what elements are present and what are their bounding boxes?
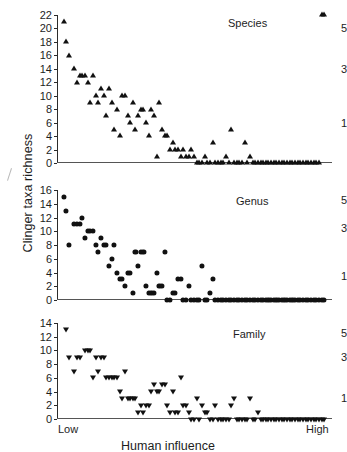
y-tick-family-0 — [54, 419, 58, 420]
data-point — [80, 215, 85, 220]
data-point — [178, 376, 184, 381]
data-point — [125, 113, 131, 118]
data-point — [104, 242, 109, 247]
y-tick-label-genus-2: 2 — [46, 281, 52, 292]
right-scale-genus-3: 3 — [341, 222, 347, 233]
data-point — [101, 93, 107, 98]
data-point — [122, 369, 128, 374]
y-tick-family-14 — [54, 323, 58, 324]
y-tick-family-12 — [54, 337, 58, 338]
y-tick-species-10 — [54, 96, 58, 97]
data-point — [186, 284, 191, 289]
data-point — [93, 242, 98, 247]
data-point — [122, 284, 127, 289]
data-point — [66, 242, 71, 247]
y-tick-family-4 — [54, 392, 58, 393]
plot-area-species — [57, 15, 331, 163]
data-point — [141, 249, 146, 254]
y-tick-genus-14 — [54, 204, 58, 205]
panel-label-genus: Genus — [236, 196, 268, 207]
y-tick-genus-4 — [54, 273, 58, 274]
right-scale-species-1: 1 — [341, 117, 347, 128]
y-tick-species-4 — [54, 136, 58, 137]
y-tick-species-16 — [54, 55, 58, 56]
data-point — [226, 417, 232, 422]
data-point — [87, 349, 93, 354]
data-point — [170, 140, 176, 145]
y-tick-genus-0 — [54, 300, 58, 301]
y-tick-label-genus-6: 6 — [46, 253, 52, 264]
right-scale-species-3: 3 — [341, 63, 347, 74]
data-point — [321, 417, 327, 422]
data-point — [154, 270, 159, 275]
y-tick-genus-12 — [54, 218, 58, 219]
y-tick-species-14 — [54, 69, 58, 70]
data-point — [175, 410, 181, 415]
data-point — [63, 39, 69, 44]
data-point — [95, 99, 101, 104]
y-tick-genus-2 — [54, 286, 58, 287]
data-point — [199, 403, 205, 408]
data-point — [146, 133, 152, 138]
y-tick-species-8 — [54, 109, 58, 110]
data-point — [96, 249, 101, 254]
right-scale-genus-1: 1 — [341, 270, 347, 281]
data-point — [135, 113, 141, 118]
y-tick-label-genus-10: 10 — [40, 226, 52, 237]
data-point — [152, 291, 157, 296]
data-point — [210, 277, 215, 282]
right-scale-family-5: 5 — [341, 328, 347, 339]
data-point — [164, 133, 170, 138]
y-tick-species-20 — [54, 28, 58, 29]
data-point — [101, 355, 107, 360]
y-axis-title: Clinger taxa richness — [21, 103, 35, 283]
y-tick-label-species-20: 20 — [40, 23, 52, 34]
data-point — [77, 222, 82, 227]
data-point — [64, 208, 69, 213]
data-point — [90, 72, 96, 77]
data-point — [151, 383, 157, 388]
data-point — [112, 242, 117, 247]
data-point — [87, 99, 93, 104]
y-tick-label-species-2: 2 — [46, 144, 52, 155]
panel-species: 0246810121416182022531 — [57, 15, 331, 163]
y-tick-genus-6 — [54, 259, 58, 260]
data-point — [71, 369, 77, 374]
data-point — [74, 79, 80, 84]
data-point — [160, 284, 165, 289]
y-tick-species-6 — [54, 123, 58, 124]
data-point — [114, 106, 120, 111]
y-tick-label-genus-16: 16 — [40, 185, 52, 196]
y-tick-label-species-8: 8 — [46, 104, 52, 115]
y-tick-label-family-6: 6 — [46, 372, 52, 383]
data-point — [122, 93, 128, 98]
data-point — [140, 106, 146, 111]
plot-area-genus — [57, 190, 331, 300]
y-tick-species-0 — [54, 163, 58, 164]
data-point — [228, 403, 234, 408]
y-tick-species-22 — [54, 15, 58, 16]
data-point — [146, 403, 152, 408]
data-point — [242, 140, 248, 145]
right-scale-genus-5: 5 — [341, 195, 347, 206]
data-point — [196, 417, 202, 422]
y-tick-family-2 — [54, 405, 58, 406]
data-point — [95, 369, 101, 374]
data-point — [183, 403, 189, 408]
data-point — [199, 263, 204, 268]
data-point — [77, 355, 83, 360]
data-point — [205, 297, 210, 302]
panel-genus: 0246810121416531 — [57, 190, 331, 300]
y-tick-label-species-0: 0 — [46, 158, 52, 169]
data-point — [98, 236, 103, 241]
panel-family: 02468101214531 — [57, 323, 331, 419]
data-point — [191, 153, 197, 158]
y-tick-label-family-14: 14 — [40, 318, 52, 329]
data-point — [85, 79, 91, 84]
data-point — [103, 113, 109, 118]
data-point — [168, 297, 173, 302]
y-tick-label-family-2: 2 — [46, 400, 52, 411]
data-point — [117, 390, 123, 395]
y-tick-label-genus-12: 12 — [40, 212, 52, 223]
